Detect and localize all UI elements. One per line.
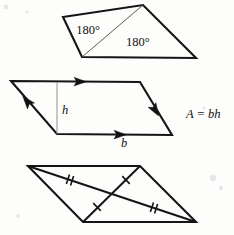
- base-label: b: [121, 136, 127, 150]
- quadrilateral-shape: 180° 180°: [63, 5, 196, 58]
- angle-sum-label-right: 180°: [126, 35, 150, 49]
- parallelogram-area-outline: [11, 81, 172, 135]
- parallelogram-area-shape: h b A = bh: [11, 77, 221, 150]
- parallelogram-diagonals-shape: [28, 166, 196, 222]
- area-formula-label: A = bh: [185, 107, 221, 121]
- side-direction-arrows: [19, 77, 162, 139]
- diagonal-single-tick: [83, 166, 140, 222]
- figure-page: 180° 180° h b A = bh: [0, 0, 234, 235]
- geometry-figure: 180° 180° h b A = bh: [0, 0, 234, 235]
- height-label: h: [62, 103, 68, 117]
- angle-sum-label-left: 180°: [76, 23, 100, 37]
